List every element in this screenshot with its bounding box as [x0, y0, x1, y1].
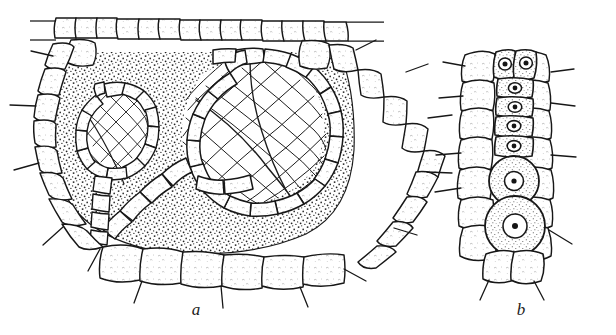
epidermis-top-row: [54, 18, 348, 41]
bottom-cell-right: [511, 250, 544, 283]
figure-b-label: b: [517, 300, 526, 319]
figure-canvas: a: [0, 0, 616, 335]
figure-a: a: [10, 18, 452, 319]
illustration-plate: a: [0, 0, 616, 335]
figure-b: b: [435, 50, 576, 319]
figure-a-label: a: [192, 300, 201, 319]
